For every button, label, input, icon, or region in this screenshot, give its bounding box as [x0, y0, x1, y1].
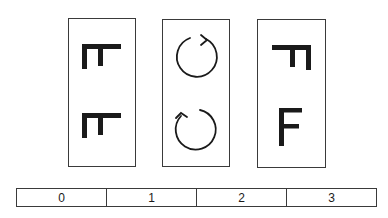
panel-left — [68, 18, 136, 167]
scale-cell-3: 3 — [287, 189, 376, 206]
scale-cell-0: 0 — [17, 189, 107, 206]
scale-cell-1: 1 — [107, 189, 197, 206]
panel-middle — [162, 19, 230, 167]
scale-bar: 0 1 2 3 — [16, 188, 377, 207]
panel-right — [257, 19, 326, 168]
scale-cell-2: 2 — [197, 189, 287, 206]
